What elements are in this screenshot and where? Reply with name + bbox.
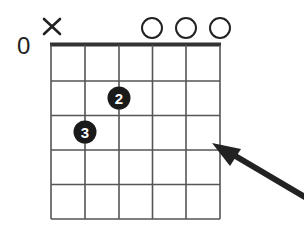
- finger-number: 2: [115, 90, 123, 107]
- chord-diagram: 0 2 3: [0, 0, 304, 233]
- arrow-icon: [212, 143, 304, 200]
- open-string-icon: [176, 18, 196, 38]
- finger-number: 3: [81, 124, 89, 141]
- finger-dot: 3: [74, 121, 97, 144]
- finger-dot: 2: [108, 87, 131, 110]
- open-string-markers: [142, 18, 230, 38]
- nut: [50, 43, 221, 47]
- frets: [51, 81, 220, 219]
- open-string-icon: [210, 18, 230, 38]
- start-fret-label: 0: [17, 32, 30, 59]
- muted-string-icon: [44, 19, 60, 34]
- open-string-icon: [142, 18, 162, 38]
